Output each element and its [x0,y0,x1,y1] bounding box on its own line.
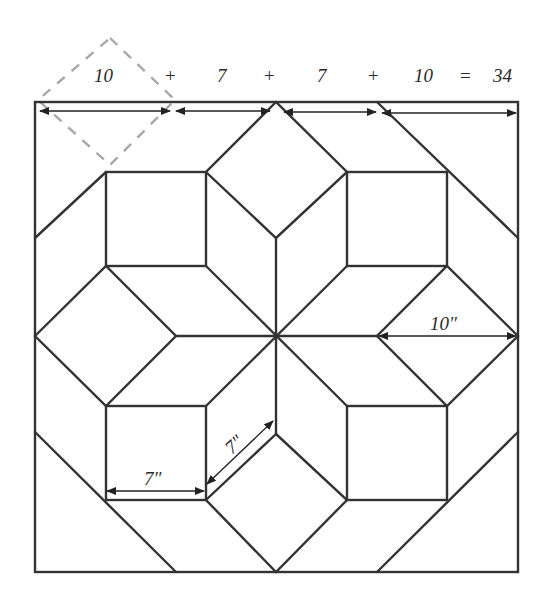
total: 34 [492,65,513,86]
right-diamond-width-label: 10″ [430,313,458,334]
diamond-bottom [206,434,347,572]
term-4: 10 [414,65,434,86]
star-spokes [176,238,377,434]
operator-3: + [368,65,379,86]
square-top-left [106,172,206,266]
term-3: 7 [317,65,328,86]
term-2: 7 [217,65,228,86]
square-width-label: 7″ [144,468,163,489]
operator-2: + [264,65,275,86]
quilt-block-diagram: 10 + 7 + 7 + 10 = 34 10″ 7″ 7″ [0,0,547,602]
term-1: 10 [94,65,114,86]
rhombus-side-label: 7″ [220,430,248,458]
diamond-left [35,266,176,406]
equals-sign: = [460,65,471,86]
top-dimension-arrows [40,111,516,113]
diamond-top [206,102,347,238]
square-top-right [347,172,447,266]
square-bottom-right [347,406,447,500]
operator-1: + [165,65,176,86]
